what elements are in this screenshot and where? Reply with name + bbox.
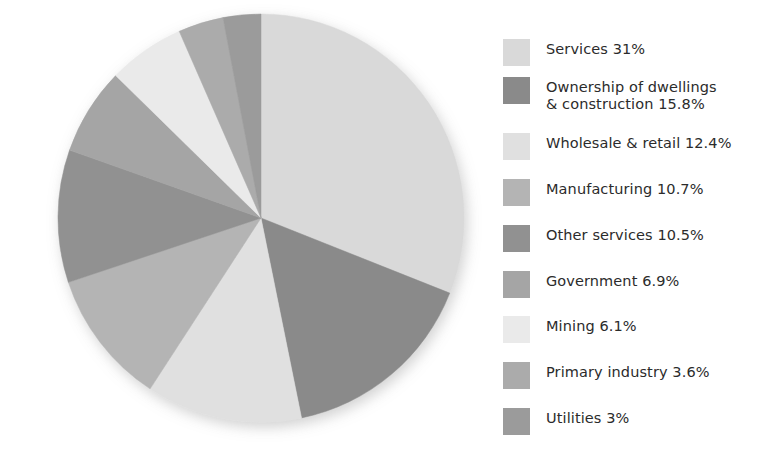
legend-swatch-primary-industry xyxy=(503,362,530,389)
legend-item-ownership-of-dwellings-construction[interactable]: Ownership of dwellings & construction 15… xyxy=(503,76,758,113)
pie-slice-group xyxy=(58,14,464,422)
legend-item-primary-industry[interactable]: Primary industry 3.6% xyxy=(503,361,758,389)
pie-chart-figure: Services 31%Ownership of dwellings & con… xyxy=(0,0,763,457)
legend-label-wholesale-retail: Wholesale & retail 12.4% xyxy=(546,132,732,152)
legend-swatch-mining xyxy=(503,316,530,343)
legend-swatch-government xyxy=(503,271,530,298)
legend-label-other-services: Other services 10.5% xyxy=(546,224,704,244)
legend-label-primary-industry: Primary industry 3.6% xyxy=(546,361,710,381)
legend-label-utilities: Utilities 3% xyxy=(546,407,629,427)
legend-label-mining: Mining 6.1% xyxy=(546,315,637,335)
legend-swatch-services xyxy=(503,39,530,66)
legend-swatch-manufacturing xyxy=(503,179,530,206)
pie-chart-svg xyxy=(40,0,490,457)
legend-swatch-wholesale-retail xyxy=(503,133,530,160)
chart-legend: Services 31%Ownership of dwellings & con… xyxy=(503,20,758,440)
pie-chart-plot-area xyxy=(40,0,490,457)
legend-swatch-other-services xyxy=(503,225,530,252)
legend-item-mining[interactable]: Mining 6.1% xyxy=(503,315,758,343)
legend-item-other-services[interactable]: Other services 10.5% xyxy=(503,224,758,252)
legend-item-utilities[interactable]: Utilities 3% xyxy=(503,407,758,435)
legend-item-wholesale-retail[interactable]: Wholesale & retail 12.4% xyxy=(503,132,758,160)
legend-swatch-ownership-of-dwellings-construction xyxy=(503,77,530,104)
legend-label-government: Government 6.9% xyxy=(546,270,679,290)
legend-label-manufacturing: Manufacturing 10.7% xyxy=(546,178,704,198)
legend-item-manufacturing[interactable]: Manufacturing 10.7% xyxy=(503,178,758,206)
legend-item-services[interactable]: Services 31% xyxy=(503,38,758,66)
legend-label-services: Services 31% xyxy=(546,38,645,58)
legend-item-government[interactable]: Government 6.9% xyxy=(503,270,758,298)
legend-swatch-utilities xyxy=(503,408,530,435)
legend-label-ownership-of-dwellings-construction: Ownership of dwellings & construction 15… xyxy=(546,76,717,113)
